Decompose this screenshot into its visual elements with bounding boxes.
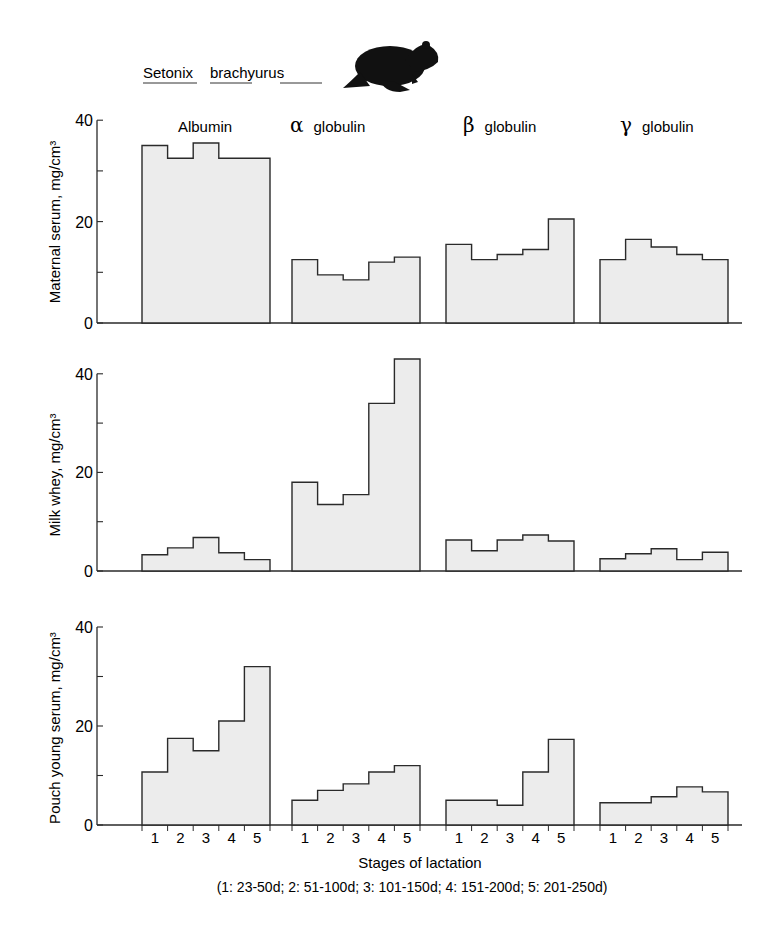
panel-pouch-young-serum: 02040Pouch young serum, mg/cm³1234512345… — [46, 619, 742, 846]
stage-label: 4 — [685, 829, 693, 846]
bar-group-3 — [600, 787, 728, 825]
stage-label: 5 — [557, 829, 565, 846]
stage-label: 5 — [403, 829, 411, 846]
group-header: Albumin — [178, 118, 232, 135]
stage-label: 1 — [151, 829, 159, 846]
lactation-protein-chart: Setonix brachyurus 02040Maternal serum, … — [0, 0, 767, 935]
group-header: αglobulin — [290, 113, 365, 137]
bar-group-0 — [142, 537, 270, 571]
chart-title: Setonix brachyurus — [143, 41, 438, 92]
bar-group-1 — [292, 359, 420, 571]
panel-milk-whey: 02040Milk whey, mg/cm³ — [46, 359, 742, 580]
group-header: γglobulin — [620, 113, 694, 137]
species-genus: Setonix — [143, 64, 194, 81]
bar-group-0 — [142, 143, 270, 323]
stage-label: 3 — [352, 829, 360, 846]
group-header: βglobulin — [463, 113, 536, 137]
bar-group-1 — [292, 766, 420, 825]
bar-group-3 — [600, 239, 728, 323]
quokka-silhouette-icon — [343, 41, 438, 92]
bar-group-2 — [446, 535, 574, 571]
bar-group-2 — [446, 219, 574, 323]
y-tick-label: 0 — [84, 563, 93, 580]
y-axis-label: Maternal serum, mg/cm³ — [46, 141, 63, 304]
bar-group-3 — [600, 549, 728, 571]
stage-label: 1 — [301, 829, 309, 846]
y-tick-label: 40 — [75, 366, 93, 383]
y-tick-label: 0 — [84, 817, 93, 834]
bar-group-2 — [446, 739, 574, 825]
stage-label: 1 — [609, 829, 617, 846]
panel-maternal-serum: 02040Maternal serum, mg/cm³ — [46, 112, 742, 332]
stage-label: 5 — [253, 829, 261, 846]
y-tick-label: 20 — [75, 464, 93, 481]
stage-label: 2 — [176, 829, 184, 846]
chart-panels: 02040Maternal serum, mg/cm³02040Milk whe… — [46, 112, 742, 846]
y-tick-label: 40 — [75, 619, 93, 636]
stage-label: 2 — [326, 829, 334, 846]
stage-label: 2 — [480, 829, 488, 846]
stage-label: 4 — [531, 829, 539, 846]
species-epithet: brachyurus — [210, 64, 284, 81]
stage-label: 1 — [455, 829, 463, 846]
stage-label: 3 — [660, 829, 668, 846]
y-axis-label: Pouch young serum, mg/cm³ — [46, 632, 63, 824]
y-tick-label: 20 — [75, 214, 93, 231]
bar-group-1 — [292, 257, 420, 323]
stage-label: 4 — [227, 829, 235, 846]
stage-label: 4 — [377, 829, 385, 846]
bar-group-0 — [142, 667, 270, 825]
stage-label: 2 — [634, 829, 642, 846]
stage-label: 3 — [202, 829, 210, 846]
y-tick-label: 0 — [84, 315, 93, 332]
y-axis-label: Milk whey, mg/cm³ — [46, 413, 63, 536]
stage-label: 3 — [506, 829, 514, 846]
stage-label: 5 — [711, 829, 719, 846]
x-axis-note: (1: 23-50d; 2: 51-100d; 3: 101-150d; 4: … — [217, 879, 608, 895]
y-tick-label: 20 — [75, 718, 93, 735]
x-axis-label: Stages of lactation — [358, 854, 481, 871]
y-tick-label: 40 — [75, 112, 93, 129]
